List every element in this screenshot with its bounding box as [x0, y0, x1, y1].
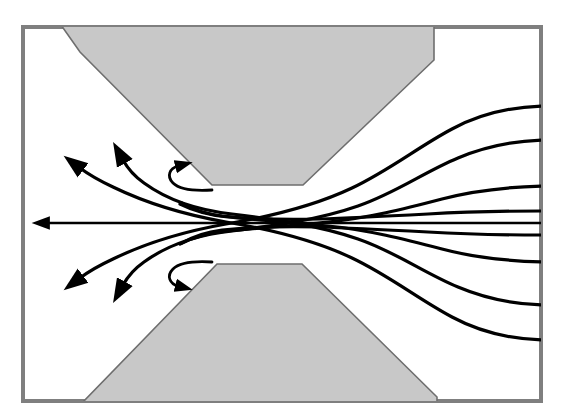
flow-field-diagram — [0, 0, 570, 420]
diagram-canvas — [0, 0, 570, 420]
